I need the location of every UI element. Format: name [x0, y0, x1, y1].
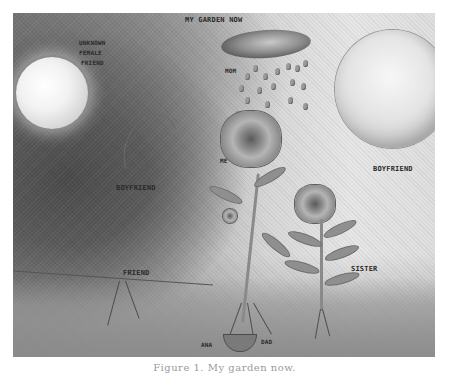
label-title: MY GARDEN NOW [185, 16, 242, 24]
unknown-friend-sun [16, 57, 88, 129]
label-me: ME [220, 157, 228, 164]
label-sister: SISTER [351, 265, 378, 273]
label-mom: MOM [225, 67, 236, 74]
label-boyfriend-right: BOYFRIEND [373, 165, 413, 173]
bud [223, 209, 237, 223]
rain-drop [253, 65, 258, 72]
label-unknown: UNKNOWN [79, 39, 106, 46]
rain-drop [303, 60, 308, 67]
label-female: FEMALE [79, 49, 102, 56]
rain-drop [295, 65, 300, 72]
rain-drop [239, 85, 244, 92]
rain-drop [275, 68, 280, 75]
rain-drop [288, 97, 293, 104]
label-friend: FRIEND [123, 269, 150, 277]
rain-drop [301, 83, 306, 90]
rain-drop [245, 73, 250, 80]
rain-drop [257, 87, 262, 94]
rain-drop [271, 83, 276, 90]
label-friend-top: FRIEND [81, 59, 104, 66]
rain-drop [286, 63, 291, 70]
rain-drop [263, 73, 268, 80]
rain-drop [290, 79, 295, 86]
rain-drop [303, 103, 308, 110]
rain-drop [245, 97, 250, 104]
ground-shading [13, 277, 435, 357]
garden-drawing: MY GARDEN NOW UNKNOWN FEMALE FRIEND MOM … [13, 13, 435, 357]
label-dad: DAD [261, 338, 272, 345]
label-ana: ANA [201, 341, 212, 348]
rain-drop [265, 101, 270, 108]
rose-me [221, 111, 281, 167]
fern-stem [320, 219, 323, 311]
figure-caption: Figure 1. My garden now. [0, 362, 449, 373]
rose-sister [295, 185, 335, 223]
label-boyfriend-left: BOYFRIEND [116, 184, 156, 192]
